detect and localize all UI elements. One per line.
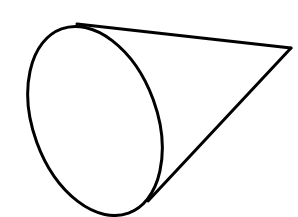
cone-top-edge (77, 24, 291, 48)
cone-base-ellipse (3, 8, 187, 217)
cone-drawing (0, 0, 298, 217)
cone-bottom-edge (148, 48, 291, 201)
